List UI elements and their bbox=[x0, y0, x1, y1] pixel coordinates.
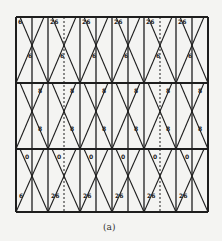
diagonal-line bbox=[52, 17, 80, 83]
label-bottom-top: 0 bbox=[121, 153, 125, 160]
label-mid-mid: 8 bbox=[198, 125, 202, 132]
label-mid-top: 8 bbox=[166, 87, 170, 94]
label-top: 6 bbox=[18, 18, 22, 25]
vertical-lines bbox=[16, 17, 208, 212]
diagonal-line bbox=[84, 83, 112, 149]
diagonal-line bbox=[176, 149, 204, 212]
label-bottom: 6 bbox=[19, 192, 23, 199]
label-mid-mid: 8 bbox=[134, 125, 138, 132]
diagonal-line bbox=[16, 149, 44, 212]
diagonal-line bbox=[80, 17, 108, 83]
diagonal-line bbox=[16, 17, 44, 83]
diagonal-line bbox=[112, 149, 140, 212]
label-top: 26 bbox=[114, 18, 122, 25]
diagonal-line bbox=[116, 17, 144, 83]
label-bottom-top: 0 bbox=[89, 153, 93, 160]
label-mid-top: 8 bbox=[70, 87, 74, 94]
label-mid-top: 8 bbox=[134, 87, 138, 94]
label-bottom: 26 bbox=[179, 192, 187, 199]
label-mid-top: 8 bbox=[38, 87, 42, 94]
label-top-mid: 6 bbox=[28, 52, 32, 59]
label-mid-mid: 8 bbox=[102, 125, 106, 132]
diagonal-line bbox=[84, 17, 112, 83]
label-bottom-top: 0 bbox=[25, 153, 29, 160]
label-mid-top: 8 bbox=[198, 87, 202, 94]
diagonal-line bbox=[48, 17, 76, 83]
diagonal-line bbox=[144, 17, 172, 83]
label-mid-top: 8 bbox=[102, 87, 106, 94]
diagonal-line bbox=[80, 149, 108, 212]
diagonal-line bbox=[176, 17, 204, 83]
label-top-mid: 6 bbox=[92, 52, 96, 59]
label-mid-mid: 8 bbox=[166, 125, 170, 132]
diagonal-line bbox=[112, 17, 140, 83]
label-top: 26 bbox=[146, 18, 154, 25]
label-bottom: 26 bbox=[147, 192, 155, 199]
label-top-mid: 6 bbox=[124, 52, 128, 59]
diagonal-line bbox=[20, 83, 48, 149]
label-top: 26 bbox=[178, 18, 186, 25]
label-bottom: 26 bbox=[115, 192, 123, 199]
diagonal-line bbox=[180, 17, 208, 83]
diagonal-line bbox=[180, 83, 208, 149]
label-top: 26 bbox=[50, 18, 58, 25]
label-bottom-top: 0 bbox=[57, 153, 61, 160]
label-top-mid: 6 bbox=[60, 52, 64, 59]
diagonal-line bbox=[116, 83, 144, 149]
label-bottom-top: 0 bbox=[185, 153, 189, 160]
figure-caption: (a) bbox=[103, 222, 115, 232]
diagonal-line bbox=[148, 17, 176, 83]
label-top-mid: 6 bbox=[156, 52, 160, 59]
diagonal-line bbox=[144, 149, 172, 212]
braid-diagram: 6262626262666666688888888888800000062626… bbox=[0, 0, 222, 241]
label-bottom: 26 bbox=[51, 192, 59, 199]
label-mid-mid: 8 bbox=[38, 125, 42, 132]
label-bottom: 26 bbox=[83, 192, 91, 199]
diagonal-line bbox=[52, 83, 80, 149]
diagonal-line bbox=[48, 149, 76, 212]
diagonal-line bbox=[148, 83, 176, 149]
diagonal-line bbox=[20, 17, 48, 83]
label-mid-mid: 8 bbox=[70, 125, 74, 132]
label-bottom-top: 0 bbox=[153, 153, 157, 160]
label-top-mid: 6 bbox=[188, 52, 192, 59]
label-top: 26 bbox=[82, 18, 90, 25]
value-labels: 6262626262666666688888888888800000062626… bbox=[18, 18, 202, 199]
